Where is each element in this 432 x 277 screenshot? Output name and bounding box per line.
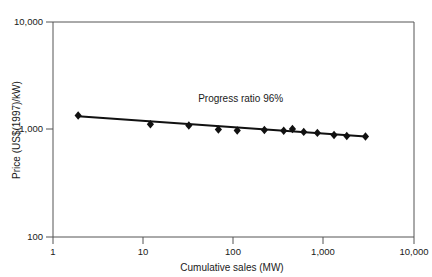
y-tick-label-10000: 10,000: [14, 16, 43, 27]
x-tick-label-10000: 10,000: [399, 246, 428, 257]
y-axis-ticks: [46, 22, 53, 237]
data-point-marker: [343, 132, 350, 140]
experience-curve-chart: 10,000 1,000 100 1 10 100 1,000 10,000 C…: [0, 0, 432, 277]
data-point-marker: [300, 128, 307, 136]
y-tick-label-100: 100: [27, 231, 43, 242]
x-tick-label-10: 10: [138, 246, 149, 257]
progress-ratio-annotation: Progress ratio 96%: [198, 93, 283, 104]
data-point-marker: [330, 131, 337, 139]
chart-canvas: 10,000 1,000 100 1 10 100 1,000 10,000 C…: [0, 0, 432, 277]
axis-lines: [53, 22, 414, 237]
x-tick-label-1000: 1,000: [311, 246, 335, 257]
x-tick-label-100: 100: [225, 246, 241, 257]
x-axis-title: Cumulative sales (MW): [180, 262, 283, 273]
data-point-marker: [314, 129, 321, 137]
y-tick-label-1000: 1,000: [19, 123, 43, 134]
x-tick-label-1: 1: [50, 246, 55, 257]
data-point-marker: [362, 132, 369, 140]
data-point-marker: [261, 126, 268, 134]
data-point-marker: [185, 121, 192, 129]
y-axis-title: Price (US$(1997)/kW): [11, 81, 22, 179]
x-axis-ticks: [53, 237, 414, 244]
data-point-marker: [280, 126, 287, 134]
data-series-line: [78, 116, 365, 136]
data-point-marker: [75, 111, 82, 119]
